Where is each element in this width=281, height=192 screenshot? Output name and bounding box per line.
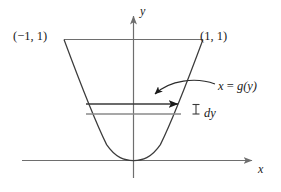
function-label-rhs: g(y) xyxy=(237,79,257,93)
figure-canvas: (−1, 1) (1, 1) y x x = g(y) dy xyxy=(0,0,281,192)
function-label: x = g(y) xyxy=(218,80,257,93)
point-label-left: (−1, 1) xyxy=(13,30,47,43)
dy-measure-mark xyxy=(193,105,200,115)
point-label-right: (1, 1) xyxy=(200,30,227,43)
dy-label: dy xyxy=(204,107,216,120)
function-label-equals: = xyxy=(224,79,237,93)
x-axis-label: x xyxy=(258,163,263,175)
y-axis-label: y xyxy=(140,5,145,17)
